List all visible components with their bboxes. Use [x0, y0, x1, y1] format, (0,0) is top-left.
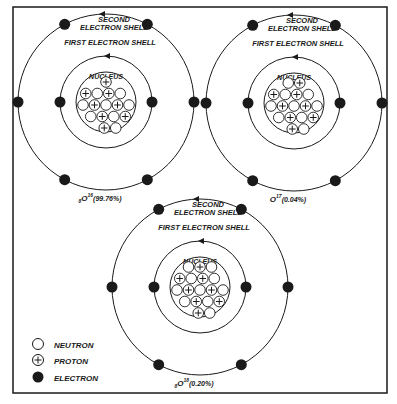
proton — [80, 88, 91, 99]
proton — [291, 89, 302, 100]
legend-label-proton: PROTON — [54, 357, 88, 366]
electron — [147, 97, 158, 108]
proton — [97, 111, 108, 122]
electron — [189, 97, 200, 108]
neutron — [108, 111, 119, 122]
electron — [330, 175, 341, 186]
electron — [241, 282, 252, 293]
electron — [153, 204, 164, 215]
neutron — [195, 285, 206, 296]
proton — [101, 77, 112, 88]
second-shell-label: ELECTRON SHELL — [174, 208, 242, 217]
neutron — [312, 101, 323, 112]
first-shell-label: FIRST ELECTRON SHELL — [252, 39, 344, 48]
isotope-label-o18: 8O18(0.20%) — [174, 377, 214, 389]
electron — [107, 282, 118, 293]
proton — [183, 285, 194, 296]
neutron — [296, 112, 307, 123]
second-shell-label: ELECTRON SHELL — [80, 23, 148, 32]
orbit-arrow-icon — [104, 53, 110, 59]
electron — [335, 98, 346, 109]
atom-o18: SECONDELECTRON SHELLFIRST ELECTRON SHELL… — [107, 196, 294, 389]
neutron — [115, 88, 126, 99]
neutron-icon — [33, 339, 44, 350]
electron — [59, 174, 70, 185]
orbit-arrow-icon — [198, 238, 204, 244]
electron — [201, 98, 212, 109]
neutron — [273, 112, 284, 123]
proton — [287, 124, 298, 135]
proton — [206, 285, 217, 296]
second-shell-label: ELECTRON SHELL — [268, 24, 336, 33]
proton — [195, 262, 206, 273]
neutron — [303, 89, 314, 100]
proton — [197, 273, 208, 284]
neutron — [92, 88, 103, 99]
neutron — [283, 78, 294, 89]
proton — [89, 100, 100, 111]
legend-label-neutron: NEUTRON — [54, 341, 94, 350]
electron — [247, 175, 258, 186]
electron — [149, 282, 160, 293]
neutron — [183, 262, 194, 273]
nucleus-label: NUCLEUS — [277, 74, 311, 81]
legend: NEUTRON PROTON ELECTRON — [33, 339, 99, 383]
proton — [174, 273, 185, 284]
proton — [277, 101, 288, 112]
legend-label-electron: ELECTRON — [54, 374, 98, 383]
neutron — [280, 89, 291, 100]
proton — [308, 112, 319, 123]
proton — [191, 296, 202, 307]
neutron — [298, 124, 309, 135]
electron — [13, 97, 24, 108]
atom-o17: SECONDELECTRON SHELLFIRST ELECTRON SHELL… — [201, 12, 388, 204]
isotope-label-o16: 8O16(99.76%) — [79, 192, 123, 204]
neutron — [179, 296, 190, 307]
isotope-label-o17: O17(0.04%) — [270, 193, 307, 204]
proton — [214, 296, 225, 307]
electron — [247, 20, 258, 31]
orbit-arrow-icon — [292, 54, 298, 60]
first-shell-label: FIRST ELECTRON SHELL — [64, 38, 156, 47]
neutron — [110, 123, 121, 134]
legend-item-electron: ELECTRON — [33, 372, 99, 383]
electron — [153, 359, 164, 370]
neutron — [124, 100, 135, 111]
oxygen-isotopes-diagram: SECONDELECTRON SHELLFIRST ELECTRON SHELL… — [0, 0, 397, 404]
electron — [243, 98, 254, 109]
electron-icon — [33, 372, 44, 383]
proton — [99, 123, 110, 134]
proton — [268, 89, 279, 100]
legend-item-proton: PROTON — [33, 355, 89, 366]
neutron — [204, 308, 215, 319]
proton — [193, 308, 204, 319]
proton — [112, 100, 123, 111]
neutron — [202, 296, 213, 307]
proton — [103, 88, 114, 99]
neutron — [172, 285, 183, 296]
neutron — [218, 285, 229, 296]
neutron — [85, 111, 96, 122]
neutron — [186, 273, 197, 284]
proton-icon — [33, 355, 44, 366]
legend-item-neutron: NEUTRON — [33, 339, 94, 350]
proton — [294, 78, 305, 89]
neutron — [209, 273, 220, 284]
first-shell-label: FIRST ELECTRON SHELL — [158, 223, 250, 232]
electron — [377, 98, 388, 109]
electron — [236, 359, 247, 370]
proton — [285, 112, 296, 123]
neutron — [101, 100, 112, 111]
neutron — [266, 101, 277, 112]
neutron — [289, 101, 300, 112]
electron — [283, 282, 294, 293]
atom-o16: SECONDELECTRON SHELLFIRST ELECTRON SHELL… — [13, 11, 200, 204]
neutron — [78, 100, 89, 111]
electron — [59, 19, 70, 30]
neutron — [206, 262, 217, 273]
proton — [120, 111, 131, 122]
electron — [142, 174, 153, 185]
proton — [300, 101, 311, 112]
electron — [55, 97, 66, 108]
